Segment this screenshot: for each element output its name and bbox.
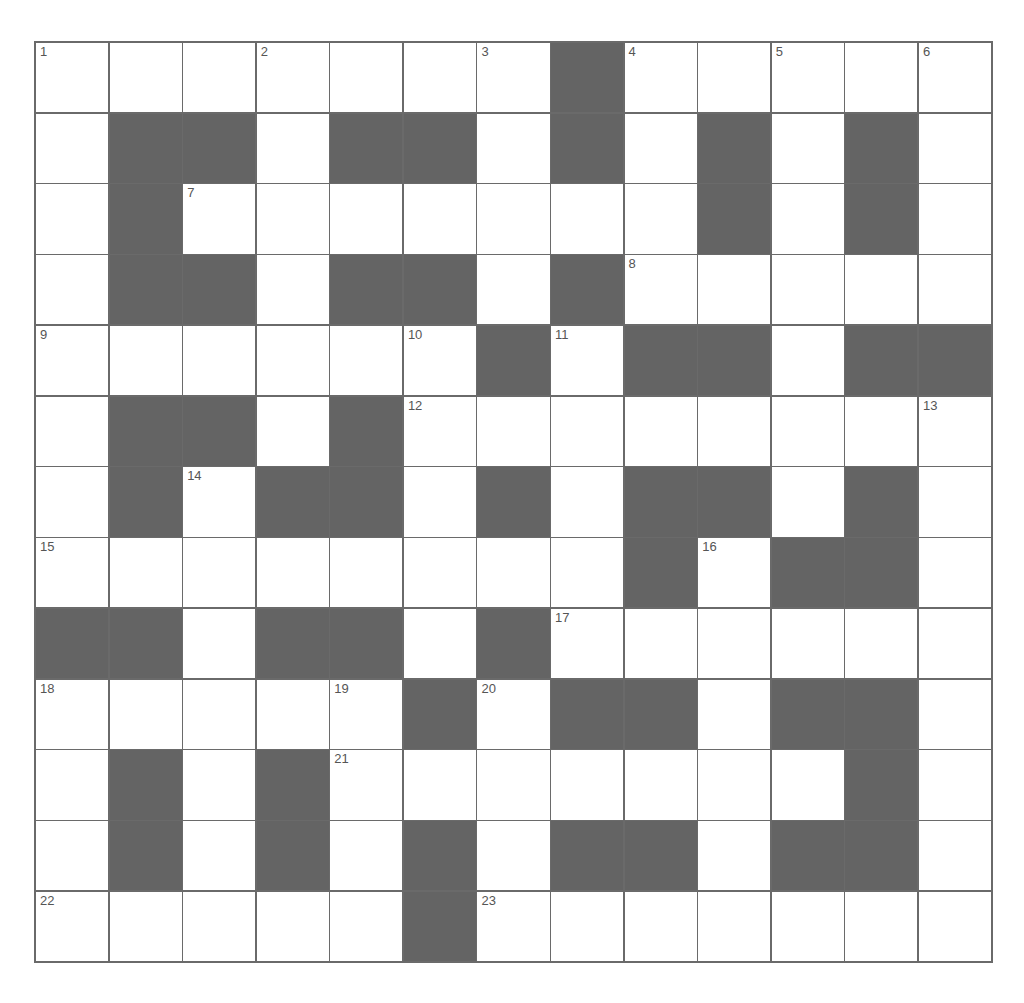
letter-cell[interactable] (698, 397, 770, 466)
letter-cell[interactable] (257, 326, 329, 395)
letter-cell[interactable] (404, 184, 476, 253)
letter-cell[interactable] (36, 114, 108, 183)
letter-cell[interactable]: 15 (36, 538, 108, 607)
letter-cell[interactable]: 21 (330, 750, 402, 819)
letter-cell[interactable] (845, 43, 917, 112)
letter-cell[interactable] (625, 114, 697, 183)
letter-cell[interactable] (625, 184, 697, 253)
letter-cell[interactable] (919, 680, 991, 749)
letter-cell[interactable]: 7 (183, 184, 255, 253)
letter-cell[interactable] (698, 255, 770, 324)
letter-cell[interactable] (919, 255, 991, 324)
letter-cell[interactable] (919, 184, 991, 253)
letter-cell[interactable] (183, 892, 255, 961)
letter-cell[interactable] (330, 184, 402, 253)
letter-cell[interactable] (551, 397, 623, 466)
letter-cell[interactable] (330, 892, 402, 961)
letter-cell[interactable] (698, 750, 770, 819)
letter-cell[interactable] (36, 467, 108, 536)
letter-cell[interactable] (257, 538, 329, 607)
letter-cell[interactable] (698, 43, 770, 112)
letter-cell[interactable] (257, 184, 329, 253)
letter-cell[interactable] (845, 892, 917, 961)
letter-cell[interactable] (257, 397, 329, 466)
letter-cell[interactable]: 4 (625, 43, 697, 112)
letter-cell[interactable] (919, 892, 991, 961)
letter-cell[interactable] (404, 538, 476, 607)
letter-cell[interactable] (257, 680, 329, 749)
letter-cell[interactable] (919, 114, 991, 183)
letter-cell[interactable]: 20 (477, 680, 549, 749)
letter-cell[interactable] (772, 184, 844, 253)
letter-cell[interactable] (477, 397, 549, 466)
letter-cell[interactable]: 12 (404, 397, 476, 466)
letter-cell[interactable] (404, 609, 476, 678)
letter-cell[interactable] (772, 892, 844, 961)
letter-cell[interactable] (772, 467, 844, 536)
letter-cell[interactable]: 13 (919, 397, 991, 466)
letter-cell[interactable] (845, 609, 917, 678)
letter-cell[interactable] (772, 255, 844, 324)
letter-cell[interactable]: 3 (477, 43, 549, 112)
letter-cell[interactable] (772, 750, 844, 819)
letter-cell[interactable] (183, 750, 255, 819)
letter-cell[interactable] (183, 538, 255, 607)
letter-cell[interactable] (625, 750, 697, 819)
letter-cell[interactable] (698, 680, 770, 749)
letter-cell[interactable] (625, 397, 697, 466)
letter-cell[interactable] (772, 397, 844, 466)
letter-cell[interactable]: 6 (919, 43, 991, 112)
letter-cell[interactable] (551, 467, 623, 536)
letter-cell[interactable]: 17 (551, 609, 623, 678)
letter-cell[interactable] (477, 184, 549, 253)
letter-cell[interactable] (477, 750, 549, 819)
letter-cell[interactable]: 2 (257, 43, 329, 112)
letter-cell[interactable]: 23 (477, 892, 549, 961)
letter-cell[interactable] (36, 255, 108, 324)
letter-cell[interactable] (36, 821, 108, 890)
letter-cell[interactable] (183, 680, 255, 749)
letter-cell[interactable] (257, 114, 329, 183)
letter-cell[interactable] (183, 43, 255, 112)
letter-cell[interactable] (919, 538, 991, 607)
letter-cell[interactable] (919, 609, 991, 678)
letter-cell[interactable] (110, 892, 182, 961)
letter-cell[interactable] (477, 821, 549, 890)
letter-cell[interactable] (551, 892, 623, 961)
letter-cell[interactable]: 22 (36, 892, 108, 961)
letter-cell[interactable] (698, 892, 770, 961)
letter-cell[interactable] (36, 397, 108, 466)
letter-cell[interactable] (257, 892, 329, 961)
letter-cell[interactable]: 1 (36, 43, 108, 112)
letter-cell[interactable] (845, 255, 917, 324)
letter-cell[interactable]: 9 (36, 326, 108, 395)
letter-cell[interactable] (477, 255, 549, 324)
letter-cell[interactable] (183, 609, 255, 678)
letter-cell[interactable] (404, 43, 476, 112)
letter-cell[interactable] (183, 821, 255, 890)
letter-cell[interactable] (404, 467, 476, 536)
letter-cell[interactable] (330, 538, 402, 607)
letter-cell[interactable] (698, 609, 770, 678)
letter-cell[interactable] (330, 821, 402, 890)
letter-cell[interactable] (330, 43, 402, 112)
letter-cell[interactable] (110, 538, 182, 607)
letter-cell[interactable] (772, 609, 844, 678)
letter-cell[interactable] (551, 538, 623, 607)
letter-cell[interactable] (845, 397, 917, 466)
letter-cell[interactable] (772, 114, 844, 183)
letter-cell[interactable]: 19 (330, 680, 402, 749)
letter-cell[interactable] (698, 821, 770, 890)
letter-cell[interactable] (257, 255, 329, 324)
letter-cell[interactable] (919, 821, 991, 890)
letter-cell[interactable] (772, 326, 844, 395)
letter-cell[interactable] (404, 750, 476, 819)
letter-cell[interactable] (110, 680, 182, 749)
letter-cell[interactable] (36, 184, 108, 253)
letter-cell[interactable]: 10 (404, 326, 476, 395)
letter-cell[interactable] (551, 750, 623, 819)
letter-cell[interactable] (625, 892, 697, 961)
letter-cell[interactable]: 18 (36, 680, 108, 749)
letter-cell[interactable]: 8 (625, 255, 697, 324)
letter-cell[interactable] (477, 538, 549, 607)
